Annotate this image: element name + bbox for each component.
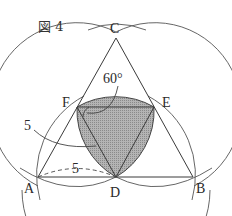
- geometry-figure: 図 4 C F E A D B 60° 5 5: [0, 0, 232, 216]
- label-b: B: [196, 181, 205, 196]
- label-a: A: [24, 181, 35, 196]
- segment-label-5: 5: [72, 161, 79, 176]
- figure-title: 図 4: [38, 19, 63, 34]
- label-d: D: [110, 185, 120, 200]
- shaded-reuleaux-region: [77, 97, 154, 177]
- label-f: F: [62, 95, 70, 110]
- angle-label-60: 60°: [103, 71, 123, 86]
- arc-right-outer: [148, 96, 195, 200]
- radius-label-5: 5: [24, 118, 31, 133]
- label-c: C: [110, 21, 119, 36]
- label-e: E: [162, 95, 171, 110]
